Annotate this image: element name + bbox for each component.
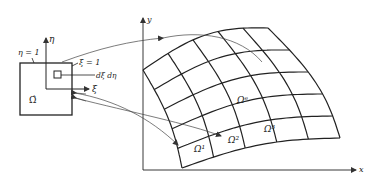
omega-2-label: Ω² (227, 135, 239, 145)
xi-boundary-leader (72, 63, 78, 66)
back-arrow-2 (76, 98, 86, 101)
omega-1-label: Ω¹ (193, 144, 205, 154)
mesh-line-vertical (243, 28, 308, 139)
omega-3-label: Ω³ (263, 124, 275, 134)
differential-label: dξ dη (96, 71, 117, 80)
x-axis-label: x (359, 165, 364, 174)
xi-axis-label: ξ (92, 84, 98, 94)
y-axis-label: y (146, 15, 152, 24)
eta-axis-label: η (49, 34, 55, 44)
finite-element-mapping-diagram: η ξ η = 1 ξ = 1 dξ dη Ω̂ y x Ωᵉ Ω¹ Ω² Ω³ (0, 0, 375, 180)
map-curve-omega-e (163, 35, 262, 62)
reference-domain-label: Ω̂ (29, 95, 36, 105)
mesh-line-horizontal (182, 138, 340, 168)
mesh-line-vertical (268, 28, 340, 138)
differential-square (54, 71, 61, 78)
eta-boundary-label: η = 1 (18, 48, 40, 57)
eta-boundary-leader (32, 58, 34, 63)
back-arrow-1 (76, 93, 86, 94)
omega-e-label: Ωᵉ (236, 95, 248, 105)
map-arrow-top (62, 38, 163, 62)
xi-boundary-label: ξ = 1 (79, 58, 100, 67)
mesh-line-horizontal (143, 28, 268, 70)
